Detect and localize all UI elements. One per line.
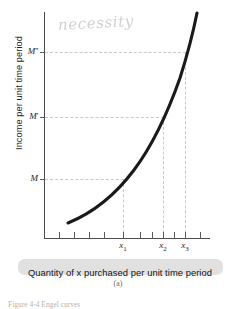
x-axis-title-wrapper: Quantity of x purchased per unit time pe… bbox=[14, 262, 226, 280]
y-axis-title: Income per unit time period bbox=[14, 8, 24, 178]
figure-caption-fragment: Figure 4-4 Engel curves bbox=[8, 300, 228, 309]
panel-label: (a) bbox=[0, 279, 236, 288]
x-axis-title: Quantity of x purchased per unit time pe… bbox=[28, 267, 212, 278]
